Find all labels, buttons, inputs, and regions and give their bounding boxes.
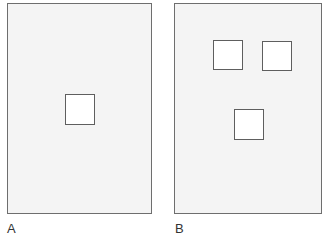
panel-a-label: A <box>7 222 16 235</box>
panel-b <box>174 3 322 214</box>
panel-b-square-bottom <box>234 109 264 140</box>
panel-a-square-center <box>65 94 95 125</box>
panel-a <box>7 3 152 214</box>
panel-b-square-top-right <box>262 41 292 71</box>
panel-b-square-top-left <box>213 40 243 70</box>
panel-b-label: B <box>175 222 184 235</box>
